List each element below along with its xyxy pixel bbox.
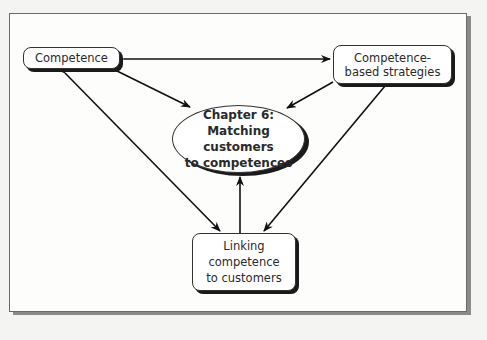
- center-line-1: Chapter 6:: [173, 107, 304, 123]
- node-competence-based-strategies: Competence-based strategies: [333, 45, 452, 84]
- node-competence: Competence: [23, 47, 120, 69]
- node-linking-competence: Linking competence to customers: [192, 233, 296, 291]
- node-linking-label: Linking competence to customers: [203, 238, 285, 286]
- node-competence-label: Competence: [35, 51, 108, 65]
- node-chapter-center: Chapter 6: Matching customers to compete…: [172, 105, 305, 173]
- center-line-3: to competences: [173, 155, 304, 171]
- edge-strategies-center: [287, 82, 333, 108]
- node-strategies-label: Competence-based strategies: [340, 51, 445, 79]
- edge-competence-center: [113, 69, 190, 107]
- center-line-2: Matching customers: [173, 123, 304, 155]
